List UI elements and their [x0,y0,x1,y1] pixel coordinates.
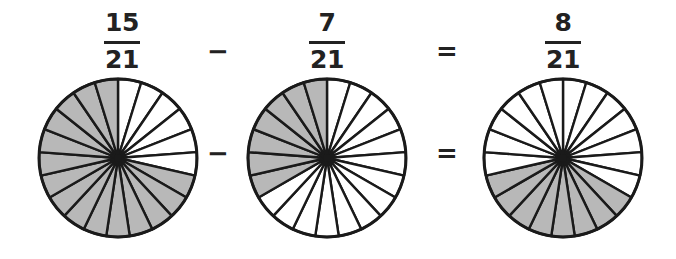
pie-diagram-row: − = [0,72,676,252]
fraction-numerator: 8 [518,10,608,39]
operator-equals-top: = [427,38,467,64]
equation-row: 15 21 − 7 21 = 8 21 [0,10,676,72]
pie-svg-1 [35,75,201,241]
pie-center-hub [323,154,331,162]
pie-chart-2 [244,75,410,241]
fraction-term-2: 7 21 [282,10,372,74]
fraction-denominator: 21 [282,47,372,74]
operator-minus-top: − [198,38,238,64]
fraction-bar [545,41,581,44]
fraction-numerator: 7 [282,10,372,39]
pie-center-hub [114,154,122,162]
pie-chart-1 [35,75,201,241]
fraction-bar [104,41,140,44]
pie-svg-3 [480,75,646,241]
fraction-term-3: 8 21 [518,10,608,74]
fraction-denominator: 21 [518,47,608,74]
pie-chart-3 [480,75,646,241]
operator-minus-middle: − [198,140,238,166]
fraction-term-1: 15 21 [77,10,167,74]
figure-canvas: 15 21 − 7 21 = 8 21 − = [0,0,676,259]
pie-svg-2 [244,75,410,241]
pie-center-hub [559,154,567,162]
fraction-numerator: 15 [77,10,167,39]
operator-equals-middle: = [427,140,467,166]
fraction-bar [309,41,345,44]
fraction-denominator: 21 [77,47,167,74]
